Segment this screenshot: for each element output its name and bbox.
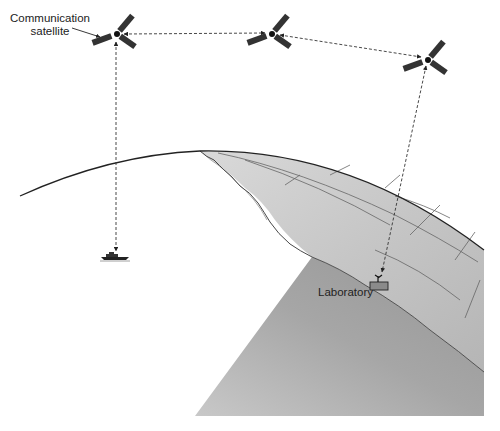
link-sat2-sat3 xyxy=(280,35,421,57)
satellite-label-line2: satellite xyxy=(10,25,90,38)
satellite-2 xyxy=(247,14,292,49)
satellite-diagram xyxy=(0,0,500,431)
ship-icon xyxy=(100,252,130,261)
satellite-1 xyxy=(92,14,137,49)
satellite-3 xyxy=(403,40,448,75)
laboratory-label: Laboratory xyxy=(318,286,373,299)
link-sat1-sat2 xyxy=(124,33,265,34)
satellite-label: Communication satellite xyxy=(10,12,90,38)
satellite-label-line1: Communication xyxy=(10,12,90,25)
